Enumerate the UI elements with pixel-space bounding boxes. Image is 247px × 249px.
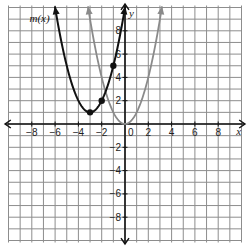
data-point xyxy=(99,98,105,104)
data-point xyxy=(110,63,116,69)
y-axis-label: y xyxy=(128,7,134,19)
x-tick-label: 4 xyxy=(169,127,175,138)
y-tick-label: −2 xyxy=(110,142,122,153)
x-tick-label: −4 xyxy=(73,127,85,138)
y-tick-label: −8 xyxy=(110,212,122,223)
y-tick-label: −4 xyxy=(110,165,122,176)
x-tick-label: 6 xyxy=(192,127,198,138)
x-tick-label: −8 xyxy=(26,127,38,138)
y-tick-label: −6 xyxy=(110,188,122,199)
origin-label: 0 xyxy=(128,127,134,138)
y-tick-label: 4 xyxy=(115,72,121,83)
function-label-m: m(x) xyxy=(29,12,49,25)
x-tick-label: −2 xyxy=(96,127,108,138)
x-tick-label: −6 xyxy=(49,127,61,138)
x-tick-label: 2 xyxy=(146,127,152,138)
y-tick-label: 2 xyxy=(115,95,121,106)
x-tick-label: 8 xyxy=(215,127,221,138)
function-curves xyxy=(53,6,164,124)
data-point xyxy=(87,109,93,115)
x-axis-label: x xyxy=(235,125,241,137)
coordinate-plane: −8−6−4−224688642−2−4−6−80 x y m(x) xyxy=(0,0,247,249)
